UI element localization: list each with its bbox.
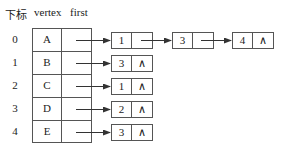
node-null: ∧ xyxy=(132,80,152,93)
node-adjvex: 3 xyxy=(112,57,131,69)
node-adjvex: 1 xyxy=(112,80,131,92)
vertex-cell: A xyxy=(33,33,61,45)
node-null: ∧ xyxy=(132,103,152,116)
node-null: ∧ xyxy=(253,34,273,47)
row-index: 2 xyxy=(8,79,22,91)
vertex-cell: C xyxy=(33,79,61,91)
row-index: 3 xyxy=(8,102,22,114)
vertex-cell: D xyxy=(33,102,61,114)
arrows xyxy=(76,41,231,133)
row-index: 0 xyxy=(8,33,22,45)
node-adjvex: 1 xyxy=(112,34,131,46)
vertex-cell: B xyxy=(33,56,61,68)
node-adjvex: 3 xyxy=(112,126,131,138)
node-null: ∧ xyxy=(132,57,152,70)
vertex-cell: E xyxy=(33,125,61,137)
node-null: ∧ xyxy=(132,126,152,139)
row-index: 1 xyxy=(8,56,22,68)
node-adjvex: 4 xyxy=(233,34,252,46)
node-adjvex: 3 xyxy=(173,34,192,46)
node-adjvex: 2 xyxy=(112,103,131,115)
row-index: 4 xyxy=(8,125,22,137)
